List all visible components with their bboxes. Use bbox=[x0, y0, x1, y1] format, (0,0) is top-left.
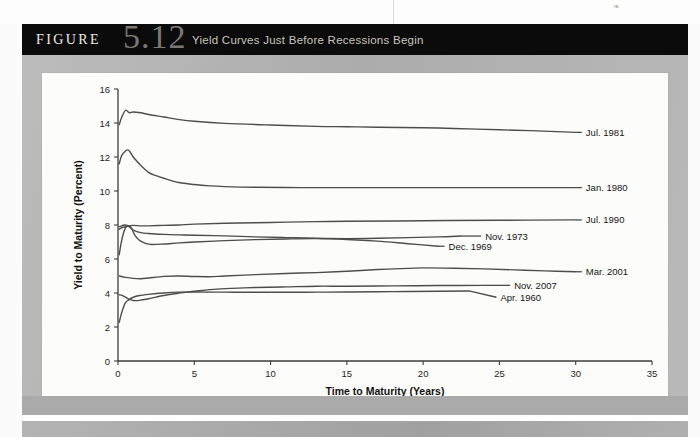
chart-axes bbox=[118, 89, 652, 361]
x-tick-label: 10 bbox=[265, 368, 276, 379]
y-tick-label: 12 bbox=[99, 152, 110, 163]
page-left-margin bbox=[0, 24, 22, 437]
series-label-jan-1980: Jan. 1980 bbox=[586, 182, 628, 193]
y-tick-label: 8 bbox=[105, 220, 110, 231]
page-fold-line bbox=[393, 0, 394, 24]
series-label-dec-1969: Dec. 1969 bbox=[449, 241, 492, 252]
curve-jul-1990 bbox=[119, 220, 575, 229]
series-label-apr-1960: Apr. 1960 bbox=[500, 292, 541, 303]
series-label-jul-1981: Jul. 1981 bbox=[586, 127, 625, 138]
y-tick-label: 10 bbox=[99, 186, 110, 197]
curve-dec-1969 bbox=[119, 226, 438, 255]
y-tick-label: 6 bbox=[105, 254, 110, 265]
curve-mar-2001 bbox=[119, 268, 575, 279]
curve-jul-1981 bbox=[119, 110, 575, 132]
page-lower-band bbox=[22, 421, 688, 437]
page-right-margin bbox=[688, 24, 700, 437]
page-speck-mark: ❧ bbox=[613, 3, 622, 11]
curve-leader-line bbox=[469, 291, 497, 297]
x-tick-label: 30 bbox=[570, 368, 581, 379]
x-tick-label: 20 bbox=[418, 368, 429, 379]
series-label-jul-1990: Jul. 1990 bbox=[586, 214, 625, 225]
plot-card: 024681012141605101520253035Time to Matur… bbox=[42, 73, 668, 402]
y-tick-label: 2 bbox=[105, 322, 110, 333]
x-tick-label: 5 bbox=[192, 368, 197, 379]
x-tick-label: 25 bbox=[494, 368, 505, 379]
panel-bottom-shade bbox=[22, 396, 688, 415]
yield-curve-chart: 024681012141605101520253035Time to Matur… bbox=[42, 73, 668, 402]
y-axis-title: Yield to Maturity (Percent) bbox=[72, 160, 84, 290]
y-tick-label: 16 bbox=[99, 84, 110, 95]
y-tick-label: 4 bbox=[105, 288, 110, 299]
figure-header-bar: FIGURE 5.12 Yield Curves Just Before Rec… bbox=[22, 24, 688, 55]
figure-title: Yield Curves Just Before Recessions Begi… bbox=[192, 34, 424, 46]
curve-nov-1973 bbox=[119, 225, 461, 239]
curve-jan-1980 bbox=[119, 150, 575, 188]
series-label-mar-2001: Mar. 2001 bbox=[586, 266, 628, 277]
series-label-nov-2007: Nov. 2007 bbox=[514, 280, 557, 291]
y-tick-label: 0 bbox=[105, 356, 110, 367]
figure-number-label: 5.12 bbox=[123, 24, 187, 55]
figure-panel: 024681012141605101520253035Time to Matur… bbox=[22, 55, 688, 415]
curve-apr-1960 bbox=[119, 291, 469, 322]
page-top-margin bbox=[0, 0, 700, 24]
x-tick-label: 35 bbox=[647, 368, 658, 379]
x-tick-label: 15 bbox=[342, 368, 353, 379]
y-tick-label: 14 bbox=[99, 118, 110, 129]
figure-word-label: FIGURE bbox=[36, 32, 101, 48]
x-tick-label: 0 bbox=[115, 368, 120, 379]
